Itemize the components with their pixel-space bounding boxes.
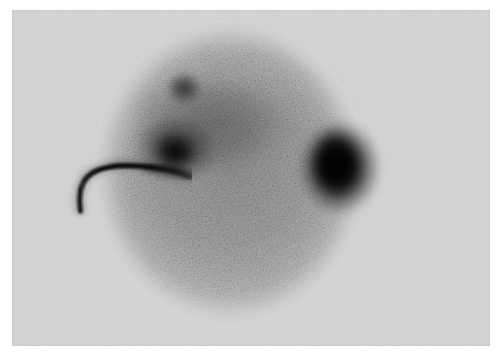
scintigram-figure: Grayscale nuclear medicine planar scinti…	[0, 0, 502, 361]
figure-description: Grayscale nuclear medicine planar scinti…	[0, 0, 1, 1]
fov-edge-feather	[90, 18, 370, 330]
scan-panel	[12, 10, 490, 346]
detector-field-of-view	[90, 18, 370, 330]
